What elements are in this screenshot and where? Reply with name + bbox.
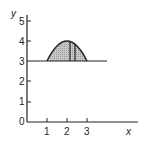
x-tick-label: 2 [64,126,70,137]
y-tick-label: 5 [19,16,25,27]
y-tick-label: 2 [19,76,25,87]
x-tick-label: 1 [44,126,50,137]
y-axis-label: y [10,8,17,19]
x-axis-label: x [125,126,132,137]
x-tick-label: 3 [84,126,90,137]
y-tick-label: 4 [19,36,25,47]
y-tick-label: 1 [19,96,25,107]
region-diagram: 0 1 2 3 4 5 y 1 2 3 x [0,0,151,147]
y-tick-label: 0 [19,116,25,127]
y-tick-label: 3 [19,56,25,67]
